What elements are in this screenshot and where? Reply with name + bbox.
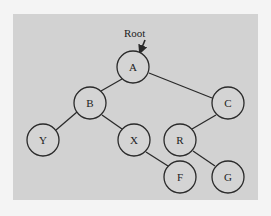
node-g: G bbox=[212, 161, 244, 193]
node-g-label: G bbox=[224, 171, 232, 183]
edge-b-x bbox=[102, 115, 122, 129]
node-x: X bbox=[118, 124, 150, 156]
node-y-label: Y bbox=[39, 134, 47, 146]
edge-c-r bbox=[192, 115, 216, 129]
node-c-label: C bbox=[224, 97, 231, 109]
root-arrow-icon bbox=[141, 40, 145, 50]
node-b-label: B bbox=[86, 97, 93, 109]
edge-a-b bbox=[101, 79, 122, 91]
edge-b-y bbox=[56, 112, 77, 130]
edge-r-g bbox=[193, 151, 215, 166]
node-b: B bbox=[74, 87, 106, 119]
diagram-stage: Root A B C Y X R F bbox=[0, 0, 271, 216]
root-label: Root bbox=[124, 27, 145, 39]
edge-a-c bbox=[149, 73, 212, 98]
node-r: R bbox=[164, 124, 196, 156]
node-y: Y bbox=[27, 124, 59, 156]
node-f: F bbox=[164, 161, 196, 193]
root-pointer: Root bbox=[124, 27, 145, 50]
node-a: A bbox=[117, 51, 149, 83]
node-a-label: A bbox=[129, 61, 137, 73]
node-f-label: F bbox=[177, 171, 183, 183]
node-c: C bbox=[212, 87, 244, 119]
node-r-label: R bbox=[176, 134, 184, 146]
edge-x-f bbox=[146, 152, 168, 166]
tree-diagram: Root A B C Y X R F bbox=[0, 0, 271, 216]
node-x-label: X bbox=[130, 134, 138, 146]
